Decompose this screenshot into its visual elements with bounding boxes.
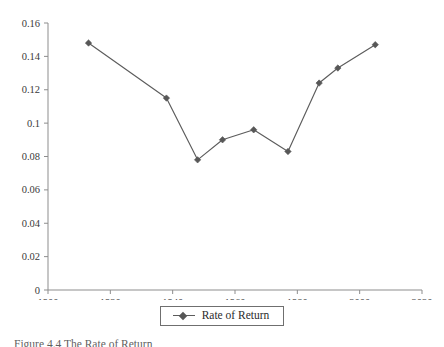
x-tick-label: 1960 (225, 297, 246, 300)
legend-label: Rate of Return (202, 309, 270, 322)
x-tick-label: 2000 (349, 297, 370, 300)
legend-box: Rate of Return (160, 306, 285, 326)
y-tick-label: 0 (35, 285, 40, 296)
legend-marker-icon (173, 311, 195, 321)
y-tick-label: 0.06 (22, 184, 40, 195)
figure-container: 00.020.040.060.080.10.120.140.16 1900192… (0, 0, 444, 347)
series-markers-rate-of-return (85, 40, 378, 163)
chart-plot-area: 00.020.040.060.080.10.120.140.16 1900192… (0, 0, 444, 300)
data-point-marker (285, 148, 291, 154)
y-tick-label: 0.14 (22, 51, 41, 62)
x-tick-label: 2020 (412, 297, 433, 300)
data-point-marker (372, 41, 378, 47)
figure-caption: Figure 4.4 The Rate of Return (14, 338, 432, 347)
y-tick-label: 0.16 (22, 18, 40, 29)
x-tick-label: 1980 (287, 297, 308, 300)
x-tick-label: 1940 (162, 297, 183, 300)
series-line-rate-of-return (89, 43, 376, 160)
y-tick-label: 0.02 (22, 251, 40, 262)
y-tick-label: 0.08 (22, 151, 40, 162)
y-tick-label: 0.04 (22, 218, 41, 229)
data-point-marker (251, 127, 257, 133)
y-tick-label: 0.1 (27, 118, 40, 129)
x-tick-label: 1920 (100, 297, 121, 300)
x-tick-label: 1900 (38, 297, 59, 300)
x-tick-group: 1900192019401960198020002020 (38, 290, 433, 300)
chart-legend: Rate of Return (0, 306, 444, 326)
line-chart: 00.020.040.060.080.10.120.140.16 1900192… (0, 0, 444, 300)
y-tick-group: 00.020.040.060.080.10.120.140.16 (22, 18, 48, 296)
y-tick-label: 0.12 (22, 84, 40, 95)
